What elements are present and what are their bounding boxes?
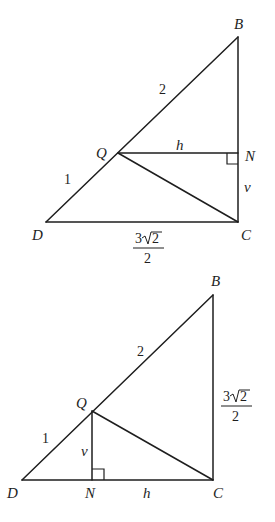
segment-DB xyxy=(46,37,238,222)
length-label-QB: 2 xyxy=(137,344,144,359)
right-angle-marker-N xyxy=(92,469,104,480)
vertex-label-N: N xyxy=(244,148,256,164)
vertex-label-B: B xyxy=(234,16,243,32)
vertex-label-N: N xyxy=(84,485,96,501)
diagram-top: B Q N D C 2 1 h v 3 2 2 xyxy=(31,16,256,266)
length-label-DC-fraction: 3 2 2 xyxy=(133,231,164,266)
length-label-QB: 2 xyxy=(159,82,166,97)
fraction-denominator: 2 xyxy=(232,409,239,424)
vertex-label-B: B xyxy=(211,273,220,289)
segment-DB xyxy=(22,295,213,480)
vertex-label-C: C xyxy=(213,485,224,501)
length-label-QN: h xyxy=(176,137,184,153)
segment-QC xyxy=(92,411,213,480)
length-label-QN: v xyxy=(81,443,88,459)
fraction-denominator: 2 xyxy=(144,251,151,266)
length-label-NC: h xyxy=(143,485,151,501)
length-label-NC: v xyxy=(244,179,251,195)
fraction-numerator-radicand: 2 xyxy=(152,231,159,246)
geometry-diagrams: B Q N D C 2 1 h v 3 2 2 B Q N D C xyxy=(0,0,275,522)
right-angle-marker-N xyxy=(227,153,238,164)
length-label-DQ: 1 xyxy=(42,431,49,446)
vertex-label-C: C xyxy=(241,227,252,243)
fraction-numerator-coef: 3 xyxy=(223,389,230,404)
vertex-label-D: D xyxy=(6,485,18,501)
vertex-label-D: D xyxy=(31,227,43,243)
length-label-BC-fraction: 3 2 2 xyxy=(221,389,252,424)
fraction-numerator-coef: 3 xyxy=(135,231,142,246)
segment-QC xyxy=(118,153,238,222)
diagram-bottom: B Q N D C 2 1 v h 3 2 2 xyxy=(6,273,252,501)
length-label-DQ: 1 xyxy=(64,172,71,187)
vertex-label-Q: Q xyxy=(76,395,87,411)
fraction-numerator-radicand: 2 xyxy=(240,389,247,404)
vertex-label-Q: Q xyxy=(96,145,107,161)
